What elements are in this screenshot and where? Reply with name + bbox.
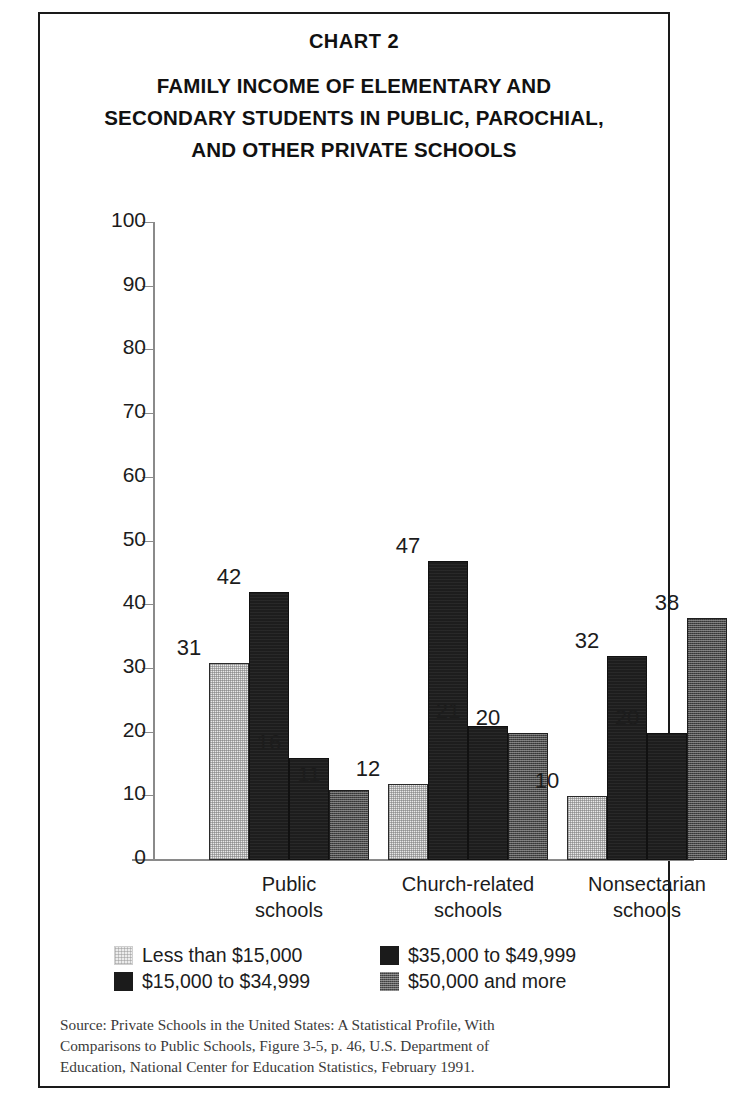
bar-value-label: 11 — [287, 762, 331, 788]
legend-row-2: $15,000 to $34,999 $50,000 and more — [114, 970, 614, 996]
bar — [468, 726, 508, 860]
source-line-3: Education, National Center for Education… — [60, 1056, 660, 1077]
bar-group: 10322038 — [567, 212, 727, 860]
source-note: Source: Private Schools in the United St… — [60, 1014, 660, 1077]
black-swatch-icon — [380, 946, 399, 965]
chart-number: CHART 2 — [40, 30, 668, 53]
chart-title: FAMILY INCOME OF ELEMENTARY AND SECONDAR… — [40, 70, 668, 166]
source-line-2: Comparisons to Public Schools, Figure 3-… — [60, 1035, 660, 1056]
gray-stipple-swatch-icon — [380, 972, 399, 991]
plot-area: 0102030405060708090100 31421611124721201… — [96, 212, 656, 877]
bar-group: 31421611 — [209, 212, 369, 860]
bar — [388, 784, 428, 860]
bar-value-label: 20 — [466, 705, 510, 731]
legend-label-0: Less than $15,000 — [142, 944, 302, 967]
legend-item-1: $15,000 to $34,999 — [114, 970, 310, 993]
category-label: Publicschools — [199, 871, 379, 923]
category-label-line: Nonsectarian — [557, 871, 731, 897]
y-tick-label: 20 — [90, 718, 146, 742]
bar-value-label: 38 — [645, 590, 689, 616]
legend-label-1: $15,000 to $34,999 — [142, 970, 310, 993]
bar-groups: 314216111247212010322038 — [155, 212, 695, 860]
y-tick-label: 100 — [90, 208, 146, 232]
bar-value-label: 10 — [525, 768, 569, 794]
legend-label-3: $50,000 and more — [408, 970, 566, 993]
category-label-line: Church-related — [378, 871, 558, 897]
chart-frame: CHART 2 FAMILY INCOME OF ELEMENTARY AND … — [38, 12, 670, 1088]
bar-value-label: 31 — [167, 635, 211, 661]
y-tick-label: 30 — [90, 654, 146, 678]
y-tick-label: 50 — [90, 527, 146, 551]
bar-value-label: 47 — [386, 533, 430, 559]
bar — [249, 592, 289, 860]
legend-label-2: $35,000 to $49,999 — [408, 944, 576, 967]
category-label-line: Public — [199, 871, 379, 897]
bar — [209, 663, 249, 860]
category-label-line: schools — [199, 897, 379, 923]
y-tick-label: 40 — [90, 590, 146, 614]
legend-item-2: $35,000 to $49,999 — [380, 944, 576, 967]
bar-value-label: 12 — [346, 756, 390, 782]
bar — [329, 790, 369, 860]
y-tick-label: 10 — [90, 781, 146, 805]
bar-value-label: 16 — [247, 730, 291, 756]
y-tick-label: 80 — [90, 335, 146, 359]
light-stipple-swatch-icon — [114, 946, 133, 965]
category-label: Church-relatedschools — [378, 871, 558, 923]
y-tick-label: 60 — [90, 463, 146, 487]
source-line-1: Source: Private Schools in the United St… — [60, 1014, 660, 1035]
bar-value-label: 21 — [426, 698, 470, 724]
category-label: Nonsectarianschools — [557, 871, 731, 923]
title-line-1: FAMILY INCOME OF ELEMENTARY AND — [40, 70, 668, 102]
y-tick-label: 70 — [90, 399, 146, 423]
category-label-line: schools — [378, 897, 558, 923]
y-tick-label: 90 — [90, 272, 146, 296]
legend-row-1: Less than $15,000 $35,000 to $49,999 — [114, 944, 614, 970]
y-tick-label: 0 — [90, 845, 146, 869]
bar — [607, 656, 647, 860]
bar-group: 12472120 — [388, 212, 548, 860]
bar — [508, 733, 548, 860]
legend-item-3: $50,000 and more — [380, 970, 566, 993]
bar-value-label: 20 — [605, 705, 649, 731]
bar — [567, 796, 607, 860]
legend-item-0: Less than $15,000 — [114, 944, 302, 967]
bar-value-label: 42 — [207, 564, 251, 590]
title-line-3: AND OTHER PRIVATE SCHOOLS — [40, 134, 668, 166]
bar — [687, 618, 727, 860]
title-line-2: SECONDARY STUDENTS IN PUBLIC, PAROCHIAL, — [40, 102, 668, 134]
bar — [647, 733, 687, 860]
bar-value-label: 32 — [565, 628, 609, 654]
legend: Less than $15,000 $35,000 to $49,999 $15… — [114, 944, 614, 996]
black-swatch-icon — [114, 972, 133, 991]
category-label-line: schools — [557, 897, 731, 923]
